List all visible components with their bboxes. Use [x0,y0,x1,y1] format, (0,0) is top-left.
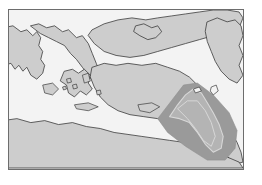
island-aegean-island-a [67,78,72,83]
figure-page [0,0,262,185]
map-frame [8,9,244,170]
island-rhodes [96,90,101,95]
reference-map [9,10,243,169]
island-aegean-island-b [72,84,77,89]
island-aegean-island-c [63,86,67,90]
